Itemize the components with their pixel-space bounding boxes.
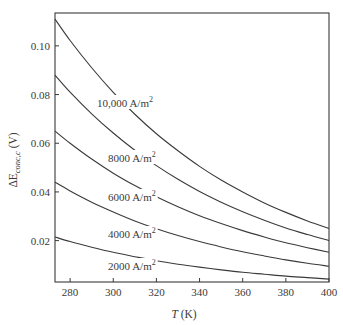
series-label-1: 8000 A/m2 xyxy=(108,150,156,164)
x-tick-label: 400 xyxy=(321,286,338,298)
series-label-2: 6000 A/m2 xyxy=(108,189,156,203)
y-tick-label: 0.08 xyxy=(31,89,51,101)
curve-series-0 xyxy=(55,19,329,228)
y-tick-label: 0.04 xyxy=(31,186,51,198)
series-label-3: 4000 A/m2 xyxy=(108,226,156,240)
y-tick-label: 0.10 xyxy=(31,40,51,52)
series-label-4: 2000 A/m2 xyxy=(108,258,156,272)
y-tick-label: 0.06 xyxy=(31,137,51,149)
data-curves xyxy=(55,19,329,279)
x-tick-label: 340 xyxy=(191,286,208,298)
chart-container: 2803003203403603804000.020.040.060.080.1… xyxy=(0,0,343,325)
x-tick-label: 300 xyxy=(105,286,122,298)
x-tick-label: 280 xyxy=(62,286,79,298)
x-tick-label: 360 xyxy=(234,286,251,298)
x-tick-label: 380 xyxy=(278,286,295,298)
y-axis-title: ΔEconc,c (V) xyxy=(7,132,22,187)
series-labels: 10,000 A/m28000 A/m26000 A/m24000 A/m220… xyxy=(95,95,158,272)
plot-frame xyxy=(55,13,329,282)
curve-series-3 xyxy=(55,182,329,266)
curve-series-2 xyxy=(55,131,329,252)
y-tick-label: 0.02 xyxy=(31,235,50,247)
line-chart: 2803003203403603804000.020.040.060.080.1… xyxy=(0,0,343,325)
series-label-0: 10,000 A/m2 xyxy=(97,95,153,109)
x-axis-title: T (K) xyxy=(171,308,196,321)
x-tick-label: 320 xyxy=(148,286,165,298)
